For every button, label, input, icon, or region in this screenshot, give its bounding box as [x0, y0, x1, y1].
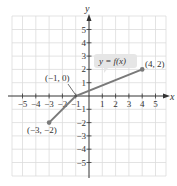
- svg-text:−3: −3: [44, 99, 54, 109]
- svg-text:−2: −2: [58, 99, 68, 109]
- svg-text:−5: −5: [18, 99, 28, 109]
- function-graph: x y −5 −4 −3 −2 −1 1 2 3 4 5 5 4 3 2 1 −…: [0, 0, 177, 186]
- svg-text:4: 4: [82, 38, 87, 48]
- point-label-c: (4, 2): [145, 59, 165, 69]
- svg-text:4: 4: [140, 99, 145, 109]
- svg-text:−5: −5: [76, 158, 86, 168]
- svg-text:5: 5: [82, 25, 87, 35]
- svg-text:1: 1: [82, 78, 87, 88]
- y-axis-arrow-icon: [87, 14, 92, 21]
- svg-text:−4: −4: [76, 144, 86, 154]
- x-axis-arrow-icon: [163, 94, 170, 99]
- svg-text:5: 5: [153, 99, 158, 109]
- x-intercept-point: [74, 95, 77, 98]
- svg-text:−2: −2: [76, 118, 86, 128]
- svg-text:2: 2: [113, 99, 118, 109]
- svg-text:2: 2: [82, 64, 87, 74]
- x-axis-label: x: [169, 91, 175, 102]
- point-label-b: (−1, 0): [45, 73, 70, 83]
- svg-text:−1: −1: [76, 104, 86, 114]
- svg-text:3: 3: [127, 99, 132, 109]
- svg-text:−3: −3: [76, 131, 86, 141]
- svg-text:3: 3: [82, 51, 87, 61]
- endpoint-right: [140, 67, 145, 72]
- point-b-leader: [68, 84, 75, 94]
- svg-text:1: 1: [100, 99, 105, 109]
- function-label: y = f(x): [98, 56, 126, 66]
- point-label-a: (−3, −2): [27, 125, 57, 135]
- svg-text:−4: −4: [31, 99, 41, 109]
- y-axis-label: y: [84, 3, 90, 14]
- x-tick-labels: −5 −4 −3 −2 −1 1 2 3 4 5: [18, 99, 159, 109]
